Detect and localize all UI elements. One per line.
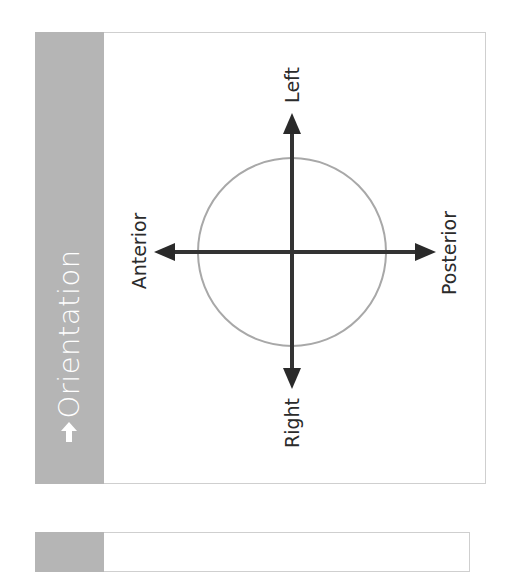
next-panel — [35, 532, 470, 572]
label-anterior: Anterior — [128, 213, 150, 290]
label-posterior: Posterior — [438, 211, 460, 295]
arrowhead-left-icon — [154, 243, 175, 261]
label-right: Right — [281, 398, 303, 448]
arrowhead-up-icon — [283, 113, 301, 134]
arrowhead-down-icon — [283, 368, 301, 389]
arrowhead-right-icon — [415, 243, 436, 261]
label-left: Left — [281, 67, 303, 103]
next-panel-sidebar — [35, 532, 104, 572]
horizontal-axis — [154, 243, 436, 261]
